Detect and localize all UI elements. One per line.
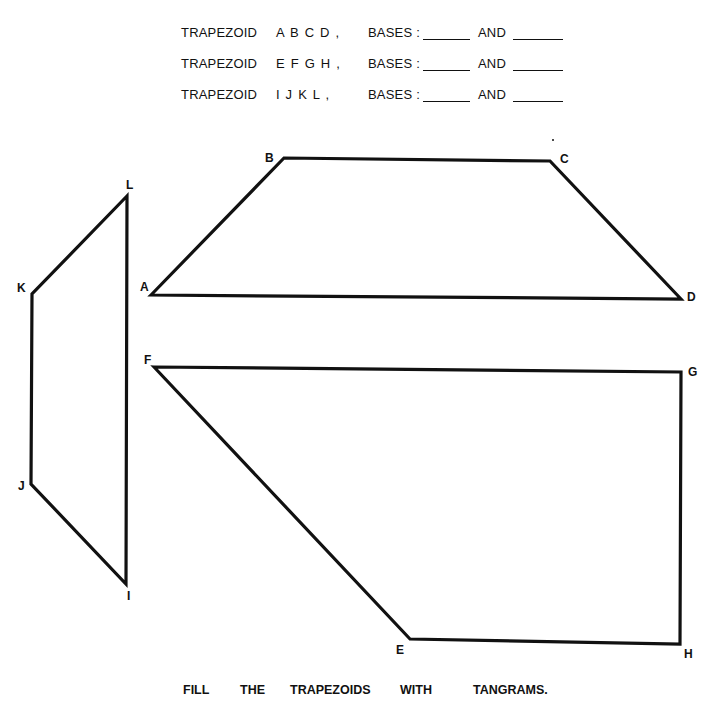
vertex-label-l: L <box>126 178 133 192</box>
trapezoid-ijkl <box>31 196 127 584</box>
vertex-label-f: F <box>144 353 151 367</box>
instruction-word: TANGRAMS. <box>473 683 548 697</box>
instruction-word: WITH <box>400 683 432 697</box>
vertex-label-c: C <box>560 152 569 166</box>
vertex-label-a: A <box>140 280 149 294</box>
trapezoid-efgh <box>154 367 681 644</box>
stray-mark <box>552 139 554 141</box>
instruction-word: FILL <box>183 683 209 697</box>
vertex-label-j: J <box>18 479 25 493</box>
vertex-label-i: I <box>127 589 130 603</box>
instruction-word: TRAPEZOIDS <box>290 683 371 697</box>
vertex-label-d: D <box>687 290 696 304</box>
vertex-label-h: H <box>684 647 693 661</box>
vertex-label-k: K <box>17 281 26 295</box>
instruction-word: THE <box>240 683 265 697</box>
vertex-label-b: B <box>265 151 274 165</box>
vertex-label-g: G <box>688 365 697 379</box>
trapezoid-abcd <box>151 158 681 299</box>
vertex-label-e: E <box>396 643 404 657</box>
trapezoid-figures: A B C D F G E H L K J I <box>0 0 712 713</box>
